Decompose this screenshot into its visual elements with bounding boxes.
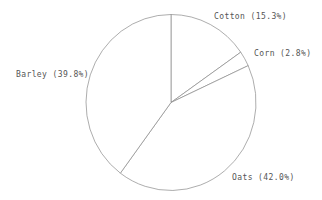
label-corn: Corn (2.8%): [254, 49, 311, 58]
label-barley: Barley (39.8%): [16, 70, 89, 79]
label-cotton: Cotton (15.3%): [214, 12, 287, 21]
label-oats: Oats (42.0%): [232, 173, 295, 182]
pie-slices: [86, 15, 256, 191]
pie-chart: Cotton (15.3%) Corn (2.8%) Barley (39.8%…: [0, 0, 322, 200]
